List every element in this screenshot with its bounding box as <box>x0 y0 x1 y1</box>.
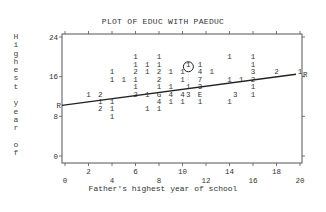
svg-text:24: 24 <box>49 34 59 42</box>
svg-text:8: 8 <box>53 113 58 121</box>
svg-text:1: 1 <box>110 76 115 84</box>
svg-text:8: 8 <box>157 177 162 185</box>
svg-text:2: 2 <box>86 168 91 176</box>
svg-text:1: 1 <box>227 53 232 61</box>
svg-text:1: 1 <box>145 68 150 76</box>
svg-text:R: R <box>303 71 308 79</box>
svg-text:1: 1 <box>298 68 303 76</box>
svg-text:16: 16 <box>49 73 59 81</box>
svg-text:18: 18 <box>272 168 281 176</box>
svg-text:1: 1 <box>121 76 126 84</box>
svg-text:2: 2 <box>274 68 279 76</box>
scatter-plot: 26101418048121620081624 1111111111121211… <box>0 0 326 212</box>
svg-text:14: 14 <box>225 168 235 176</box>
svg-text:3: 3 <box>186 91 191 99</box>
svg-text:1: 1 <box>251 91 256 99</box>
svg-text:4: 4 <box>110 177 115 185</box>
svg-text:0: 0 <box>63 177 68 185</box>
svg-text:1: 1 <box>180 76 185 84</box>
svg-text:1: 1 <box>239 76 244 84</box>
svg-text:3: 3 <box>233 91 238 99</box>
svg-text:R: R <box>56 102 61 110</box>
svg-text:1: 1 <box>86 91 91 99</box>
svg-text:1: 1 <box>110 113 115 121</box>
svg-text:1: 1 <box>145 105 150 113</box>
axis-ticks: 26101418048121620081624 <box>49 31 305 185</box>
svg-text:1: 1 <box>227 98 232 106</box>
svg-text:1: 1 <box>168 98 173 106</box>
svg-text:1: 1 <box>198 98 203 106</box>
svg-text:12: 12 <box>201 177 210 185</box>
svg-text:6: 6 <box>133 168 138 176</box>
svg-text:1: 1 <box>157 105 162 113</box>
svg-text:2: 2 <box>98 105 103 113</box>
svg-text:1: 1 <box>210 68 215 76</box>
svg-text:0: 0 <box>53 153 58 161</box>
svg-text:20: 20 <box>295 177 305 185</box>
svg-text:10: 10 <box>178 168 188 176</box>
svg-text:1: 1 <box>168 68 173 76</box>
svg-text:2: 2 <box>133 91 138 99</box>
svg-text:16: 16 <box>248 177 258 185</box>
svg-text:1: 1 <box>180 98 185 106</box>
